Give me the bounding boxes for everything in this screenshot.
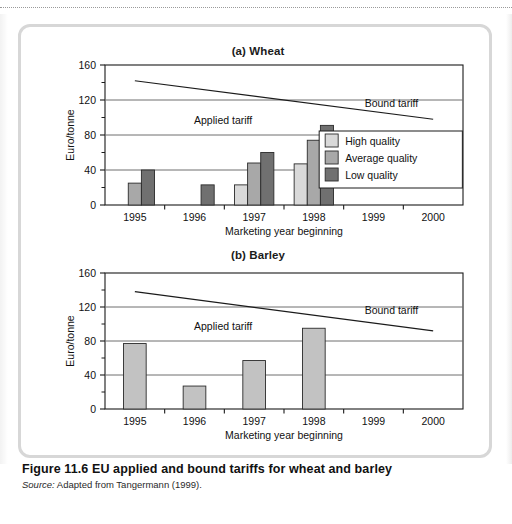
svg-text:1997: 1997 <box>242 415 266 427</box>
chart-barley: (b) Barley 04080120160Euro/tonne19951996… <box>21 249 495 457</box>
page-tear-line <box>0 7 512 9</box>
page-edge-shadow-left <box>0 14 8 464</box>
figure-source-text: Adapted from Tangermann (1999). <box>55 479 202 490</box>
figure-source-label: Source: <box>22 479 55 490</box>
svg-text:0: 0 <box>90 199 96 211</box>
svg-text:High quality: High quality <box>345 135 401 147</box>
svg-text:1996: 1996 <box>183 415 207 427</box>
chart-wheat-plot-area: 04080120160Euro/tonne1995199619971998199… <box>21 33 495 249</box>
figure-panel: (a) Wheat 04080120160Euro/tonne199519961… <box>18 24 492 458</box>
svg-text:1998: 1998 <box>302 211 326 223</box>
figure-caption-block: Figure 11.6 EU applied and bound tariffs… <box>22 462 492 490</box>
figure-page: (a) Wheat 04080120160Euro/tonne199519961… <box>0 0 512 524</box>
svg-text:Euro/tonne: Euro/tonne <box>64 315 76 367</box>
svg-text:Applied tariff: Applied tariff <box>194 114 252 126</box>
svg-text:120: 120 <box>78 94 96 106</box>
chart-barley-svg: 04080120160Euro/tonne1995199619971998199… <box>21 249 495 457</box>
svg-text:Bound tariff: Bound tariff <box>365 97 419 109</box>
svg-text:1999: 1999 <box>362 415 386 427</box>
chart-wheat: (a) Wheat 04080120160Euro/tonne199519961… <box>21 33 495 249</box>
svg-text:2000: 2000 <box>421 211 445 223</box>
chart-wheat-svg: 04080120160Euro/tonne1995199619971998199… <box>21 33 495 249</box>
svg-text:Low quality: Low quality <box>345 169 398 181</box>
svg-text:120: 120 <box>78 301 96 313</box>
svg-text:Euro/tonne: Euro/tonne <box>64 109 76 161</box>
svg-text:Marketing year beginning: Marketing year beginning <box>225 225 343 237</box>
svg-text:1999: 1999 <box>362 211 386 223</box>
svg-text:160: 160 <box>78 59 96 71</box>
svg-text:2000: 2000 <box>421 415 445 427</box>
page-edge-shadow-right <box>506 14 512 464</box>
svg-text:80: 80 <box>84 129 96 141</box>
chart-barley-plot-area: 04080120160Euro/tonne1995199619971998199… <box>21 249 495 457</box>
svg-text:Marketing year beginning: Marketing year beginning <box>225 429 343 441</box>
svg-text:40: 40 <box>84 369 96 381</box>
svg-text:Applied tariff: Applied tariff <box>194 320 252 332</box>
svg-text:1995: 1995 <box>123 415 147 427</box>
svg-text:0: 0 <box>90 403 96 415</box>
svg-text:40: 40 <box>84 164 96 176</box>
svg-text:80: 80 <box>84 335 96 347</box>
svg-text:1997: 1997 <box>242 211 266 223</box>
figure-source: Source: Adapted from Tangermann (1999). <box>22 479 492 490</box>
svg-text:160: 160 <box>78 267 96 279</box>
svg-text:1996: 1996 <box>183 211 207 223</box>
svg-text:Bound tariff: Bound tariff <box>365 304 419 316</box>
svg-text:1998: 1998 <box>302 415 326 427</box>
svg-text:Average quality: Average quality <box>345 152 418 164</box>
svg-text:1995: 1995 <box>123 211 147 223</box>
figure-caption: Figure 11.6 EU applied and bound tariffs… <box>22 462 492 476</box>
